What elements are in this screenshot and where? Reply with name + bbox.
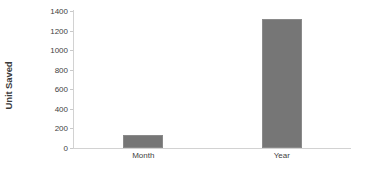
plot-area: [74, 11, 351, 148]
y-axis-tick-mark: [70, 50, 73, 51]
y-axis-title: Unit Saved: [0, 0, 20, 171]
x-axis-tick-labels: MonthYear: [74, 151, 351, 169]
y-axis-tick-label: 0: [28, 144, 68, 153]
y-axis-tick-label: 1000: [28, 46, 68, 55]
y-axis-tick-label: 400: [28, 104, 68, 113]
y-axis-tick-label: 800: [28, 65, 68, 74]
y-axis-tick-mark: [70, 70, 73, 71]
y-axis-tick-mark: [70, 11, 73, 12]
y-axis-tick-mark: [70, 89, 73, 90]
bar-month: [123, 135, 163, 148]
x-axis-tick-label: Month: [74, 151, 213, 160]
y-axis-tick-label: 1400: [28, 7, 68, 16]
y-axis-tick-mark: [70, 31, 73, 32]
y-axis-tick-mark: [70, 148, 73, 149]
bar-year: [262, 19, 302, 148]
y-axis-tick-mark: [70, 128, 73, 129]
bar-chart: Unit Saved 0200400600800100012001400 Mon…: [0, 0, 367, 171]
y-axis-tick-label: 600: [28, 85, 68, 94]
x-axis-line: [73, 148, 351, 149]
y-axis-tick-mark: [70, 109, 73, 110]
y-axis-tick-label: 1200: [28, 26, 68, 35]
x-axis-tick-label: Year: [213, 151, 352, 160]
y-axis-tick-labels: 0200400600800100012001400: [28, 0, 68, 171]
y-axis-tick-label: 200: [28, 124, 68, 133]
